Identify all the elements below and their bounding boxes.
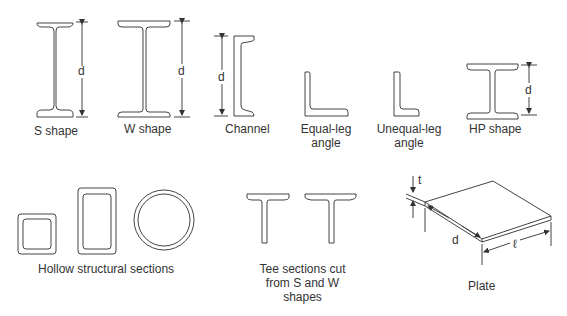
hp-shape-label: HP shape [469, 122, 521, 136]
equal-leg-angle-icon [305, 72, 348, 116]
plate-l-label: ℓ [513, 237, 517, 251]
w-shape-label: W shape [124, 122, 171, 136]
equal-leg-angle-label: Equal-leg angle [298, 122, 354, 150]
hollow-square-icon [18, 214, 56, 254]
hollow-rectangle-icon [78, 188, 116, 254]
unequal-leg-angle-label: Unequal-leg angle [372, 122, 446, 150]
plate-d-label: d [452, 233, 459, 247]
plate-t-label: t [418, 173, 422, 187]
tee-s-icon [247, 194, 289, 243]
channel-label: Channel [225, 122, 270, 136]
plate-icon [406, 176, 551, 265]
tee-w-icon [305, 194, 356, 243]
w-dim-label: d [178, 64, 185, 78]
s-dim-label: d [78, 64, 85, 78]
tee-sections-label: Tee sections cut from S and W shapes [255, 262, 350, 304]
channel-dim-label: d [218, 70, 225, 84]
hollow-sections-label: Hollow structural sections [38, 262, 174, 276]
hollow-circle-icon [134, 190, 194, 250]
s-shape-label: S shape [34, 124, 78, 138]
plate-label: Plate [468, 279, 495, 293]
hp-dim-label: d [525, 83, 532, 97]
unequal-leg-angle-icon [394, 72, 419, 116]
